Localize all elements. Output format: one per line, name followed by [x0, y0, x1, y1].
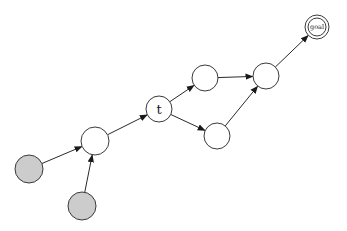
edge-d-to-goal [275, 36, 308, 67]
edge-t-to-c [171, 114, 205, 130]
node-s2 [68, 192, 96, 220]
edge-s1-to-a [42, 147, 82, 164]
node-a [81, 127, 109, 155]
node-label: t [156, 102, 162, 117]
node-circle [253, 63, 279, 89]
node-s1 [15, 155, 43, 183]
node-circle [68, 192, 96, 220]
node-circle [15, 155, 43, 183]
node-label: goal [310, 23, 324, 31]
node-circle [192, 65, 218, 91]
node-goal: goal [305, 15, 329, 39]
node-t: t [146, 96, 172, 122]
node-d [253, 63, 279, 89]
edge-s2-to-a [85, 155, 92, 192]
edge-t-to-b [170, 86, 194, 102]
edge-a-to-t [108, 115, 147, 135]
edges-layer [42, 36, 308, 193]
edge-b-to-d [218, 76, 253, 77]
node-c [204, 123, 230, 149]
graph-canvas: tgoal [0, 0, 347, 231]
nodes-layer: tgoal [15, 15, 329, 220]
edge-c-to-d [225, 86, 257, 125]
node-circle [81, 127, 109, 155]
node-circle [204, 123, 230, 149]
node-b [192, 65, 218, 91]
